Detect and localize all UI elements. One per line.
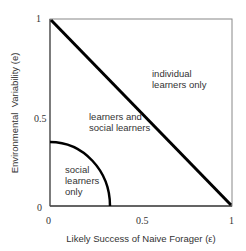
region-social-line1: social bbox=[65, 164, 89, 175]
x-axis-label: Likely Success of Naive Forager (ε) bbox=[66, 233, 215, 244]
region-mixed-line1: learners and bbox=[89, 111, 142, 122]
x-tick-0-5: 0.5 bbox=[136, 215, 149, 226]
region-individual-line1: individual bbox=[152, 68, 192, 79]
region-individual-line2: learners only bbox=[152, 79, 207, 90]
region-social-line2: learners bbox=[65, 175, 100, 186]
region-social-line3: only bbox=[65, 186, 83, 197]
phase-diagram: 1 0.5 0 0 0.5 1 individual learners only… bbox=[0, 0, 246, 251]
x-tick-1: 1 bbox=[229, 215, 234, 226]
y-tick-1: 1 bbox=[36, 13, 41, 24]
y-axis-label: Environmental Variability (e) bbox=[9, 53, 20, 174]
region-mixed-line2: social learners bbox=[89, 122, 150, 133]
y-tick-0-5: 0.5 bbox=[34, 113, 47, 124]
y-tick-0: 0 bbox=[37, 202, 42, 213]
x-tick-0: 0 bbox=[46, 215, 51, 226]
